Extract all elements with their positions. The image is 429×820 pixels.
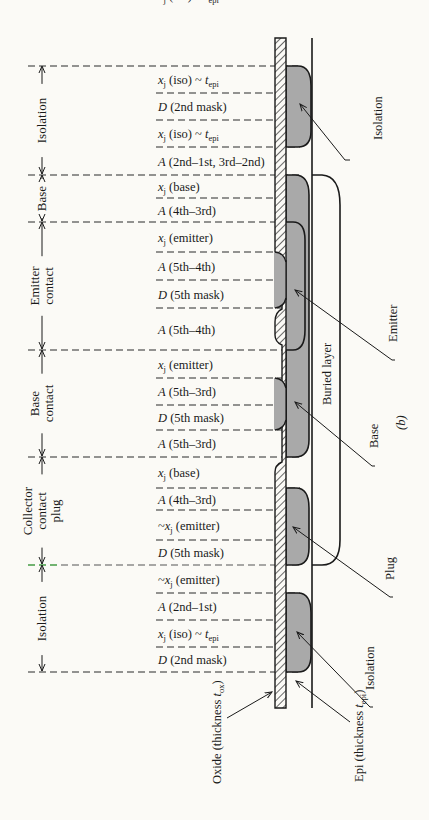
section-bracket: Emittercontact: [27, 223, 56, 349]
section-label: Emitter: [27, 266, 42, 306]
row-label: A (4th–3rd): [157, 204, 216, 218]
row-label: xj (emitter): [157, 231, 213, 247]
section-bracket: Isolation: [34, 67, 49, 174]
callout-base: Base: [367, 423, 381, 448]
row-label: A (5th–3rd): [157, 437, 216, 451]
row-label: D (5th mask): [157, 288, 224, 302]
row-label: A (5th–4th): [157, 260, 215, 274]
row-label: D (2nd mask): [157, 100, 227, 114]
row-label: D (2nd mask): [157, 653, 227, 667]
row-label: xj (iso) ~ tepi: [157, 0, 220, 5]
emitter-diffusion: [286, 222, 305, 350]
row-label: ~xj (emitter): [158, 573, 220, 589]
figure-label: (b): [394, 415, 408, 430]
section-label: Base: [27, 391, 42, 417]
section-label: Collector: [20, 486, 35, 535]
section-label: contact: [34, 492, 49, 530]
isolation-diffusion-bottom: [286, 593, 311, 672]
row-label: xj (iso) ~ tepi: [157, 627, 220, 643]
section-bracket: Basecontact: [27, 351, 56, 456]
oxide-window-emitter: [274, 252, 286, 308]
section-brackets: IsolationBaseEmittercontactBasecontactCo…: [20, 67, 63, 671]
oxide-layer: [275, 38, 286, 708]
callout-isolation-top: Isolation: [371, 96, 385, 140]
callout-epi: Epi (thickness tepi): [352, 690, 368, 782]
section-label: plug: [48, 499, 63, 523]
row-label: D (5th mask): [157, 411, 224, 425]
row-label: xj (iso) ~ tepi: [157, 127, 220, 143]
section-label: Isolation: [34, 97, 49, 143]
row-label: xj (base): [157, 466, 200, 482]
row-label: A (4th–3rd): [157, 493, 216, 507]
callout-plug: Plug: [383, 556, 397, 580]
oxide-window-base: [274, 378, 286, 430]
row-label: xj (iso) ~ tepi: [157, 73, 220, 89]
section-label: contact: [41, 267, 56, 305]
row-label: A (2nd–1st): [157, 600, 217, 614]
section-bracket: Base: [34, 176, 49, 221]
callout-emitter: Emitter: [386, 304, 400, 342]
section-bracket: Collectorcontactplug: [20, 458, 63, 564]
row-labels: xj (iso) ~ tepiD (2nd mask)xj (iso) ~ te…: [157, 0, 265, 667]
callout-buried-layer: Buried layer: [320, 342, 334, 405]
row-label: xj (base): [157, 180, 200, 196]
row-label: ~xj (emitter): [158, 519, 220, 535]
row-label: A (5th–4th): [157, 323, 215, 337]
callout-isolation-bottom: Isolation: [363, 646, 377, 690]
row-label: xj (emitter): [157, 358, 213, 374]
callout-oxide: Oxide (thickness tox): [210, 680, 226, 784]
row-label: A (5th–3rd): [157, 385, 216, 399]
section-bracket: Isolation: [34, 566, 49, 671]
row-label: A (2nd–1st, 3rd–2nd): [157, 155, 265, 169]
section-label: Base: [34, 186, 49, 212]
row-label: D (5th mask): [157, 546, 224, 560]
plug-diffusion: [286, 488, 309, 565]
section-label: Isolation: [34, 595, 49, 641]
bipolar-layout-cross-section: IsolationBaseEmittercontactBasecontactCo…: [0, 0, 429, 820]
section-label: contact: [41, 384, 56, 422]
isolation-diffusion-top: [286, 66, 311, 147]
